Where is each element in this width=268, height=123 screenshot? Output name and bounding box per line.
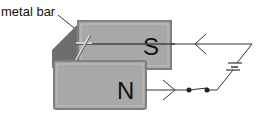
right-wire-upper bbox=[237, 44, 252, 63]
north-pole-label: N bbox=[117, 77, 134, 104]
right-wire-lower bbox=[217, 70, 233, 90]
magnet-circuit-diagram: metal bar S N bbox=[0, 0, 268, 123]
switch-contact-left bbox=[187, 88, 192, 93]
switch-lever bbox=[189, 88, 207, 90]
north-magnet-block: N bbox=[54, 61, 146, 109]
metal-bar-label: metal bar bbox=[1, 4, 56, 19]
south-pole-label: S bbox=[143, 33, 159, 60]
switch-contact-right bbox=[205, 88, 210, 93]
